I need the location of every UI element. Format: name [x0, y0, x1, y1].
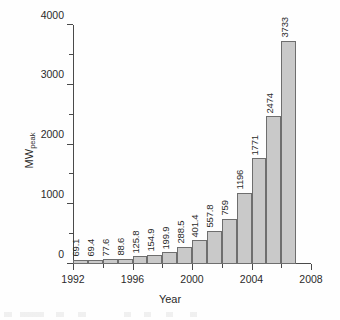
x-tick-major: [73, 264, 74, 270]
y-tick-minor: [69, 233, 73, 234]
x-tick-major: [252, 264, 253, 270]
y-tick-major: [67, 203, 73, 204]
x-tick-major: [311, 264, 312, 270]
bar: 154.9: [147, 255, 162, 264]
y-axis-title: MWpeak: [24, 133, 35, 169]
plot-area: 01000200030004000 19921996200020042008 6…: [73, 25, 311, 264]
x-axis-title: Year: [0, 294, 340, 305]
bar: 288.5: [177, 247, 192, 264]
bar-value-label: 88.6: [116, 238, 126, 256]
bar: 557.8: [207, 231, 222, 264]
x-tick-major: [133, 264, 134, 270]
y-tick-label: 0: [58, 248, 64, 259]
bar: 1771: [252, 158, 267, 264]
y-tick-major: [67, 24, 73, 25]
y-axis-title-subscript: peak: [28, 133, 37, 149]
x-tick-label: 2000: [180, 274, 203, 285]
y-tick-label: 4000: [41, 9, 64, 20]
bar-value-label: 77.6: [101, 239, 111, 257]
x-tick-minor: [281, 264, 282, 268]
y-tick-major: [67, 84, 73, 85]
bar-value-label: 154.9: [145, 229, 155, 252]
x-tick-major: [192, 264, 193, 270]
bar-value-label: 3733: [279, 18, 289, 38]
bar: 125.8: [133, 256, 148, 264]
bar: 69.1: [73, 260, 88, 264]
bar: 2474: [266, 116, 281, 264]
y-tick-minor: [69, 173, 73, 174]
bar-value-label: 557.8: [205, 205, 215, 228]
x-tick-label: 2004: [240, 274, 263, 285]
bar-chart-figure: MWpeak 01000200030004000 199219962000200…: [0, 0, 340, 320]
bar: 401.4: [192, 240, 207, 264]
x-tick-label: 2008: [299, 274, 322, 285]
bar-value-label: 1771: [249, 135, 259, 155]
y-tick-minor: [69, 114, 73, 115]
bar: 759: [222, 219, 237, 264]
bar: 88.6: [118, 259, 133, 264]
x-tick-minor: [162, 264, 163, 268]
bar: 199.9: [162, 252, 177, 264]
bar-value-label: 69.1: [71, 239, 81, 257]
bar: 69.4: [88, 260, 103, 264]
y-tick-major: [67, 144, 73, 145]
bar-value-label: 125.8: [130, 231, 140, 254]
y-tick-minor: [69, 54, 73, 55]
y-tick-label: 2000: [41, 129, 64, 140]
bar-value-label: 1196: [235, 170, 245, 190]
y-axis-line: [73, 25, 74, 264]
x-tick-label: 1992: [61, 274, 84, 285]
y-tick-label: 3000: [41, 69, 64, 80]
bar-value-label: 199.9: [160, 226, 170, 249]
y-axis-title-base: MW: [23, 149, 35, 169]
bar-value-label: 288.5: [175, 221, 185, 244]
y-tick-label: 1000: [41, 189, 64, 200]
bar-value-label: 2474: [264, 93, 274, 113]
x-tick-label: 1996: [121, 274, 144, 285]
bar: 1196: [237, 193, 252, 264]
scan-artifact: [4, 312, 254, 317]
bar: 77.6: [103, 259, 118, 264]
x-tick-minor: [222, 264, 223, 268]
x-tick-minor: [103, 264, 104, 268]
bar: 3733: [281, 41, 296, 264]
bar-value-label: 759: [220, 200, 230, 215]
bar-value-label: 401.4: [190, 214, 200, 237]
bar-value-label: 69.4: [86, 239, 96, 257]
